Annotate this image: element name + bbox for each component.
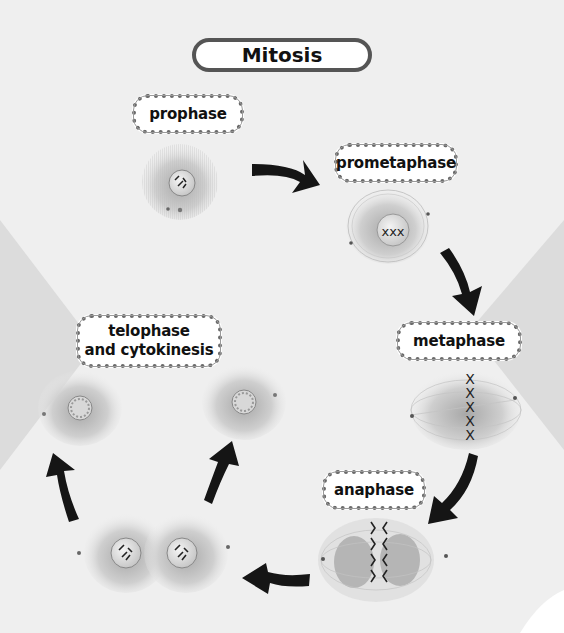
arrow-telophase-to-daughter-left (46, 453, 79, 522)
cell-metaphase: X X X X X (410, 370, 521, 450)
cell-prometaphase: xxx (346, 188, 430, 264)
svg-text:X: X (465, 427, 475, 443)
cell-daughter-left (38, 370, 122, 446)
arrow-anaphase-to-telophase (242, 563, 310, 594)
mitosis-diagram: Mitosis prophase prometaphase metaphase … (0, 0, 564, 633)
arrow-metaphase-to-anaphase (428, 453, 478, 524)
cell-prophase (142, 144, 218, 220)
arrow-prometaphase-to-metaphase (440, 248, 482, 316)
cell-daughter-right (202, 364, 286, 440)
svg-text:xxx: xxx (381, 224, 404, 239)
cell-telophase-dividing (77, 513, 230, 593)
cell-anaphase (318, 518, 448, 602)
arrow-prophase-to-prometaphase (252, 160, 320, 193)
cell-illustrations: xxx X X X X X (0, 0, 564, 633)
arrow-telophase-to-daughter-right (204, 441, 239, 504)
